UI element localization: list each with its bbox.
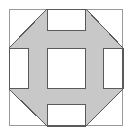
figure-container: [0, 0, 132, 138]
left-notch: [10, 49, 29, 89]
top-notch: [48, 10, 86, 31]
center-square: [48, 49, 86, 89]
bottom-notch: [48, 105, 86, 126]
right-notch: [104, 49, 123, 89]
octagon-ring-figure: [0, 0, 132, 138]
